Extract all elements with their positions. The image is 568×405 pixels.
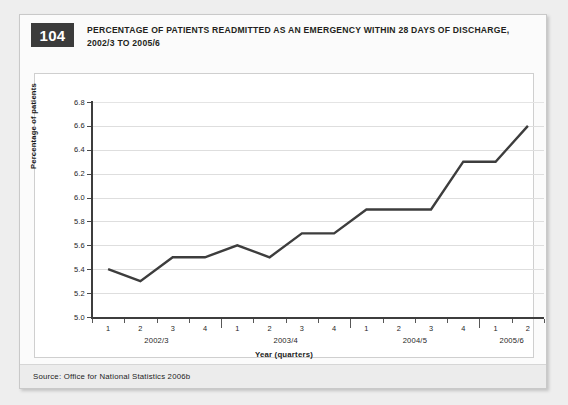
x-axis-tick-mark (383, 319, 384, 323)
chart-panel: Percentage of patients 6.86.66.46.26.05.… (34, 73, 534, 358)
x-axis-year-label: 2003/4 (256, 336, 316, 345)
x-axis-year-label: 2005/6 (482, 336, 542, 345)
x-axis-quarter-label: 2 (260, 324, 280, 333)
x-axis-tick-mark (544, 319, 545, 323)
y-axis-tick-label: 5.4 (57, 265, 85, 274)
x-axis-year-label: 2004/5 (385, 336, 445, 345)
y-axis-tick-label: 5.8 (57, 217, 85, 226)
y-axis-tick-label: 5.6 (57, 241, 85, 250)
x-axis-tick-mark (157, 319, 158, 323)
x-axis-quarter-label: 2 (130, 324, 150, 333)
x-axis-quarter-label: 1 (356, 324, 376, 333)
x-axis-title: Year (quarters) (35, 350, 533, 359)
y-axis-tick-label: 6.4 (57, 145, 85, 154)
x-axis-tick-mark (92, 319, 93, 323)
x-axis-quarter-label: 2 (518, 324, 538, 333)
page-root: 104 PERCENTAGE OF PATIENTS READMITTED AS… (0, 0, 568, 405)
figure-card: 104 PERCENTAGE OF PATIENTS READMITTED AS… (19, 14, 547, 389)
figure-title-line1: PERCENTAGE OF PATIENTS READMITTED AS AN … (87, 25, 509, 35)
x-axis-quarter-label: 1 (486, 324, 506, 333)
y-axis-tick-label: 5.0 (57, 313, 85, 322)
x-axis-quarter-label: 4 (453, 324, 473, 333)
x-axis-quarter-label: 4 (195, 324, 215, 333)
x-axis-tick-mark (253, 319, 254, 323)
y-axis-tick-label: 6.6 (57, 121, 85, 130)
y-axis-tick-label: 6.0 (57, 193, 85, 202)
x-axis-quarter-label: 1 (98, 324, 118, 333)
x-axis-tick-mark (512, 319, 513, 323)
y-axis-tick-label: 5.2 (57, 289, 85, 298)
source-footer: Source: Office for National Statistics 2… (20, 364, 546, 388)
x-axis-tick-mark (189, 319, 190, 323)
data-series-line (92, 102, 544, 318)
figure-number-badge: 104 (31, 23, 74, 47)
x-axis-quarter-label: 2 (389, 324, 409, 333)
source-text: Source: Office for National Statistics 2… (33, 372, 190, 381)
x-axis-year-separator (221, 319, 222, 328)
figure-title-line2: 2002/3 TO 2005/6 (87, 37, 509, 50)
x-axis-quarter-label: 3 (292, 324, 312, 333)
figure-title: PERCENTAGE OF PATIENTS READMITTED AS AN … (87, 24, 509, 50)
x-axis-quarter-label: 1 (227, 324, 247, 333)
x-axis-tick-mark (124, 319, 125, 323)
x-axis-tick-mark (415, 319, 416, 323)
y-axis-tick-label: 6.8 (57, 98, 85, 107)
y-axis-tick-label: 6.2 (57, 169, 85, 178)
x-axis-year-separator (479, 319, 480, 328)
x-axis-quarter-label: 3 (421, 324, 441, 333)
x-axis-quarter-label: 4 (324, 324, 344, 333)
x-axis-year-label: 2002/3 (127, 336, 187, 345)
x-axis-year-separator (350, 319, 351, 328)
x-axis-tick-mark (318, 319, 319, 323)
x-axis-tick-mark (447, 319, 448, 323)
figure-header: 104 PERCENTAGE OF PATIENTS READMITTED AS… (20, 15, 546, 65)
x-axis-tick-mark (286, 319, 287, 323)
y-axis-title: Percentage of patients (29, 83, 38, 169)
x-axis-quarter-label: 3 (163, 324, 183, 333)
